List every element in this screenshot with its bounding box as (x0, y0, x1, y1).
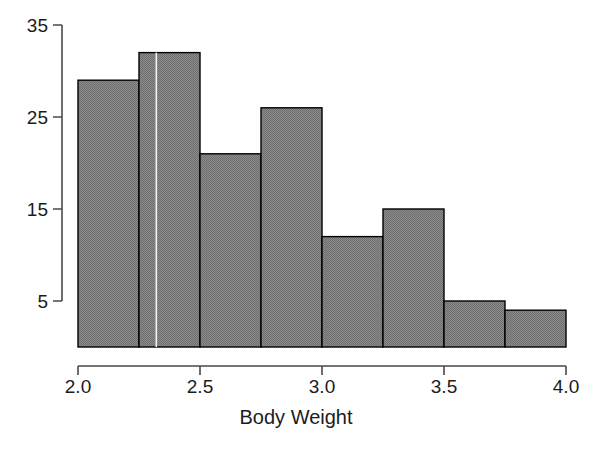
histogram-bar (505, 310, 566, 347)
histogram-bar (261, 108, 322, 347)
histogram-bar (139, 53, 200, 347)
scan-artifact-line (156, 53, 158, 347)
plot-canvas: 5152535 2.02.53.03.54.0 Body Weight (0, 0, 593, 458)
x-tick-label: 2.0 (65, 376, 91, 397)
x-tick-label: 4.0 (553, 376, 579, 397)
histogram-chart: 5152535 2.02.53.03.54.0 Body Weight (0, 0, 593, 458)
histogram-bar (444, 301, 505, 347)
y-tick-label: 5 (37, 291, 48, 312)
histogram-bar (200, 154, 261, 347)
histogram-bar (322, 237, 383, 347)
y-tick-label: 35 (27, 15, 48, 36)
histogram-bar (78, 80, 139, 347)
x-tick-label: 3.5 (431, 376, 457, 397)
y-tick-label: 15 (27, 199, 48, 220)
histogram-bar (383, 209, 444, 347)
x-tick-label: 2.5 (187, 376, 213, 397)
y-tick-label: 25 (27, 107, 48, 128)
x-tick-label: 3.0 (309, 376, 335, 397)
x-axis-title: Body Weight (239, 406, 352, 428)
